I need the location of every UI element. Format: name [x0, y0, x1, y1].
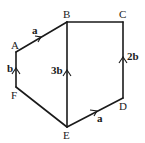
edge-label-fa: b — [7, 62, 13, 74]
vector-hexagon-diagram: A B C D E F a b 3b 2b a — [0, 0, 145, 143]
vertex-label-c: C — [119, 8, 126, 20]
vertex-label-f: F — [11, 89, 17, 101]
vertex-label-d: D — [119, 100, 127, 112]
edge-label-ab: a — [32, 24, 38, 36]
vertex-label-a: A — [11, 39, 19, 51]
vertex-label-b: B — [63, 8, 70, 20]
edge-label-ed: a — [97, 112, 103, 124]
edge-label-eb: 3b — [51, 64, 63, 76]
vertex-label-e: E — [63, 129, 70, 141]
edge-label-dc: 2b — [127, 50, 139, 62]
edge-e-f — [16, 87, 67, 127]
edge-d-e — [67, 98, 123, 127]
